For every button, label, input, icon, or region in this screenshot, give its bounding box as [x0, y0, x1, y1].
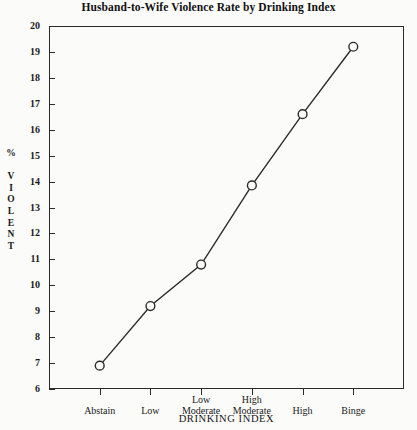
y-axis-label-char: T: [4, 241, 18, 253]
data-point-marker: [349, 42, 358, 51]
y-tick-mark: [49, 156, 55, 157]
y-tick-label: 16: [14, 124, 40, 135]
y-tick-label: 15: [14, 150, 40, 161]
y-tick-label: 6: [14, 383, 40, 394]
y-tick-label: 17: [14, 98, 40, 109]
y-tick-mark: [49, 389, 55, 390]
x-tick-mark: [353, 389, 354, 395]
y-tick-mark: [49, 285, 55, 286]
y-tick-label: 12: [14, 227, 40, 238]
data-point-marker: [247, 181, 256, 190]
y-tick-label: 10: [14, 279, 40, 290]
y-tick-label: 20: [14, 20, 40, 31]
line-series: [49, 26, 404, 389]
y-tick-label: 18: [14, 72, 40, 83]
series-line: [100, 47, 354, 366]
y-tick-mark: [49, 363, 55, 364]
y-tick-label: 8: [14, 331, 40, 342]
y-tick-mark: [49, 26, 55, 27]
y-tick-mark: [49, 208, 55, 209]
y-tick-mark: [49, 104, 55, 105]
y-tick-mark: [49, 337, 55, 338]
y-tick-mark: [49, 311, 55, 312]
y-tick-label: 14: [14, 176, 40, 187]
y-tick-label: 11: [14, 253, 40, 264]
x-axis-label: DRINKING INDEX: [49, 413, 404, 424]
x-tick-label-line: High: [207, 394, 297, 405]
data-point-marker: [197, 260, 206, 269]
y-axis-label-char: [4, 160, 18, 172]
y-tick-mark: [49, 130, 55, 131]
x-tick-mark: [150, 389, 151, 395]
chart-page: Husband-to-Wife Violence Rate by Drinkin…: [0, 0, 417, 430]
y-tick-mark: [49, 182, 55, 183]
y-tick-mark: [49, 233, 55, 234]
data-point-marker: [298, 110, 307, 119]
page-title: Husband-to-Wife Violence Rate by Drinkin…: [0, 1, 417, 13]
series-markers: [95, 42, 357, 370]
y-tick-label: 9: [14, 305, 40, 316]
y-tick-mark: [49, 78, 55, 79]
x-tick-mark: [100, 389, 101, 395]
x-tick-mark: [303, 389, 304, 395]
y-tick-mark: [49, 259, 55, 260]
y-tick-label: 7: [14, 357, 40, 368]
data-point-marker: [146, 302, 155, 311]
y-tick-label: 19: [14, 46, 40, 57]
y-tick-mark: [49, 52, 55, 53]
y-tick-label: 13: [14, 202, 40, 213]
data-point-marker: [95, 361, 104, 370]
